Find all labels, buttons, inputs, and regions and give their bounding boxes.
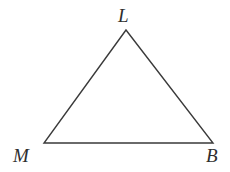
vertex-label-B: B [206,146,218,165]
triangle-outline [44,30,213,143]
geometry-figure: L M B [0,0,230,172]
triangle-shape [0,0,230,172]
vertex-label-L: L [118,6,129,25]
vertex-label-M: M [13,146,29,165]
